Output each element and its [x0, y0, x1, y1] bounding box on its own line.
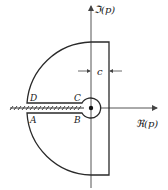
- c-label: c: [97, 66, 103, 77]
- origin-point: [89, 106, 93, 110]
- point-label-c: C: [74, 93, 81, 103]
- real-axis-label: ℜ(p): [136, 118, 158, 129]
- imaginary-axis-label: ℑ(p): [94, 4, 115, 15]
- point-label-b: B: [73, 115, 81, 125]
- contour-diagram: c ℑ(p) ℜ(p) D C A B: [0, 0, 168, 190]
- branch-cut: [10, 106, 84, 110]
- point-label-a: A: [29, 115, 37, 125]
- point-label-d: D: [29, 93, 37, 103]
